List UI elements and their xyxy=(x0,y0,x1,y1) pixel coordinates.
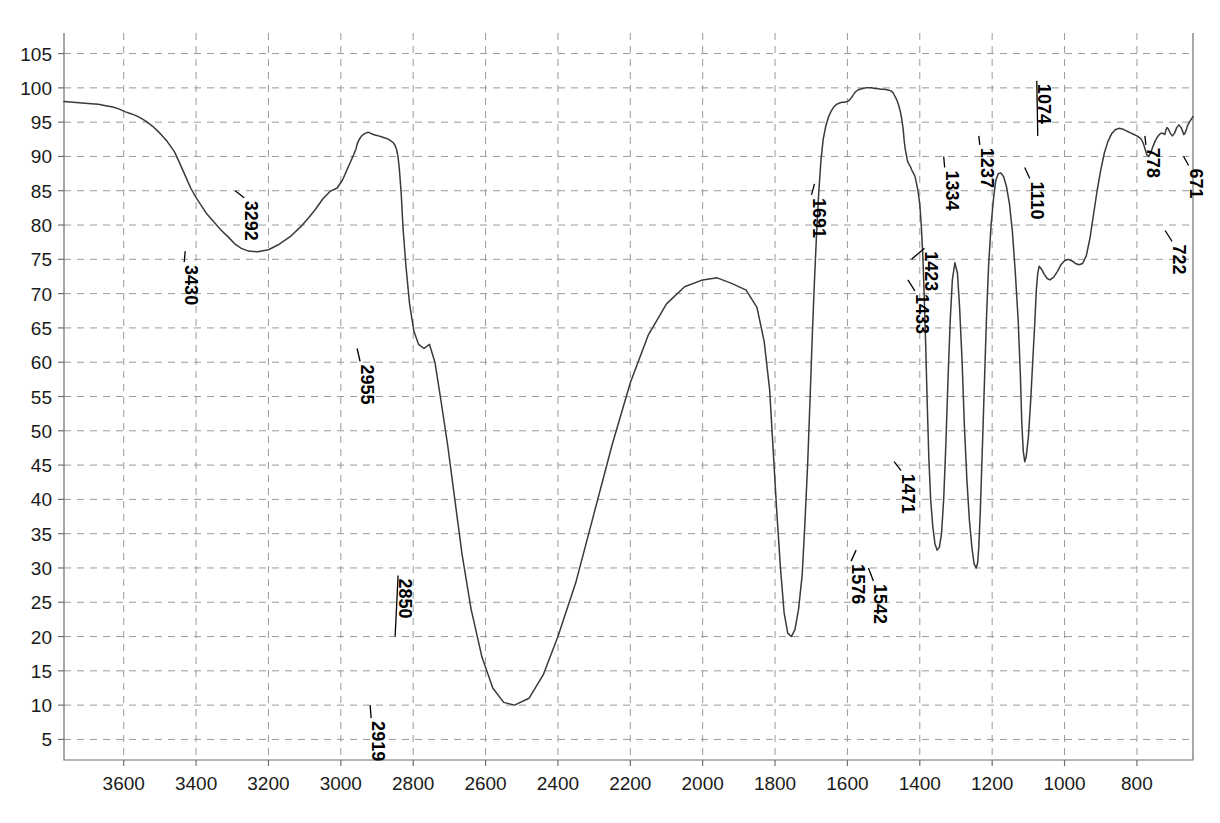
peak-label-2919: 2919 xyxy=(368,721,388,761)
peak-label-2850: 2850 xyxy=(395,579,415,619)
peak-label-1074: 1074 xyxy=(1034,84,1054,124)
spectrum-plot-area: 3600340032003000280026002400220020001800… xyxy=(0,0,1220,823)
y-tick-label: 80 xyxy=(31,215,52,236)
y-tick-label: 15 xyxy=(31,661,52,682)
x-tick-label: 2400 xyxy=(537,773,579,794)
peak-label-778: 778 xyxy=(1143,148,1163,178)
x-tick-label: 1400 xyxy=(899,773,941,794)
x-tick-label: 1600 xyxy=(826,773,868,794)
y-tick-label: 75 xyxy=(31,249,52,270)
y-tick-label: 5 xyxy=(41,729,52,750)
x-tick-label: 3600 xyxy=(103,773,145,794)
ir-spectrum-chart: 3600340032003000280026002400220020001800… xyxy=(0,0,1220,823)
y-tick-label: 45 xyxy=(31,455,52,476)
y-tick-label: 40 xyxy=(31,489,52,510)
peak-label-1110: 1110 xyxy=(1027,181,1047,219)
y-tick-label: 85 xyxy=(31,181,52,202)
x-tick-label: 2600 xyxy=(464,773,506,794)
y-tick-label: 20 xyxy=(31,627,52,648)
y-tick-label: 60 xyxy=(31,352,52,373)
peak-label-1423: 1423 xyxy=(921,251,941,291)
y-tick-label: 100 xyxy=(20,78,52,99)
y-tick-label: 35 xyxy=(31,524,52,545)
peak-label-671: 671 xyxy=(1186,168,1206,198)
peak-label-722: 722 xyxy=(1169,245,1189,275)
y-tick-label: 25 xyxy=(31,592,52,613)
y-tick-label: 70 xyxy=(31,284,52,305)
x-tick-label: 1200 xyxy=(971,773,1013,794)
x-tick-label: 1000 xyxy=(1043,773,1085,794)
x-tick-label: 2800 xyxy=(392,773,434,794)
x-tick-label: 800 xyxy=(1121,773,1153,794)
peak-label-2955: 2955 xyxy=(357,364,377,404)
peak-label-3292: 3292 xyxy=(241,201,261,241)
x-tick-label: 3200 xyxy=(247,773,289,794)
y-tick-label: 65 xyxy=(31,318,52,339)
y-tick-label: 30 xyxy=(31,558,52,579)
x-tick-label: 3000 xyxy=(320,773,362,794)
peak-label-1433: 1433 xyxy=(912,294,932,334)
y-tick-label: 105 xyxy=(20,44,52,65)
peak-label-1576: 1576 xyxy=(848,564,868,604)
y-tick-label: 50 xyxy=(31,421,52,442)
peak-label-1334: 1334 xyxy=(942,170,962,210)
x-tick-label: 2000 xyxy=(682,773,724,794)
y-tick-label: 55 xyxy=(31,387,52,408)
peak-label-1691: 1691 xyxy=(808,198,828,238)
peak-label-1542: 1542 xyxy=(870,584,890,624)
peak-label-1237: 1237 xyxy=(977,148,997,188)
x-axis-tick-labels: 3600340032003000280026002400220020001800… xyxy=(103,773,1153,794)
peak-label-3430: 3430 xyxy=(181,265,201,305)
y-tick-label: 90 xyxy=(31,146,52,167)
x-tick-label: 3400 xyxy=(175,773,217,794)
x-tick-label: 2200 xyxy=(609,773,651,794)
peak-label-1471: 1471 xyxy=(898,474,918,514)
y-tick-label: 95 xyxy=(31,112,52,133)
y-tick-label: 10 xyxy=(31,695,52,716)
x-tick-label: 1800 xyxy=(754,773,796,794)
